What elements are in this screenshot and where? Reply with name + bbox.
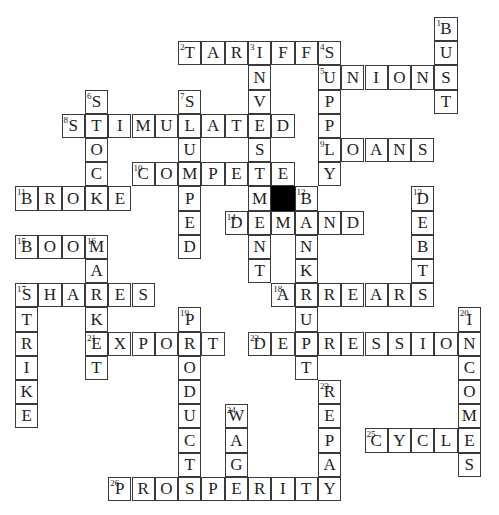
crossword-cell[interactable]: A: [225, 428, 248, 452]
crossword-cell[interactable]: E: [108, 186, 131, 210]
crossword-cell[interactable]: O: [155, 332, 178, 356]
crossword-cell[interactable]: 23R: [318, 380, 341, 404]
crossword-cell[interactable]: M: [132, 114, 155, 138]
crossword-cell[interactable]: N: [318, 211, 341, 235]
crossword-cell[interactable]: R: [318, 332, 341, 356]
crossword-cell[interactable]: R: [388, 283, 411, 307]
crossword-cell[interactable]: 16M: [85, 235, 108, 259]
crossword-cell[interactable]: P: [318, 428, 341, 452]
crossword-cell[interactable]: D: [271, 114, 294, 138]
crossword-cell[interactable]: 13D: [411, 186, 434, 210]
crossword-cell[interactable]: M: [248, 186, 271, 210]
crossword-cell[interactable]: E: [178, 211, 201, 235]
crossword-cell[interactable]: K: [15, 380, 38, 404]
crossword-cell[interactable]: N: [295, 235, 318, 259]
crossword-cell[interactable]: T: [178, 453, 201, 477]
crossword-cell[interactable]: D: [178, 235, 201, 259]
crossword-cell[interactable]: R: [15, 332, 38, 356]
crossword-cell[interactable]: G: [225, 453, 248, 477]
crossword-cell[interactable]: A: [62, 283, 85, 307]
crossword-cell[interactable]: 14D: [225, 211, 248, 235]
crossword-cell[interactable]: 12B: [295, 186, 318, 210]
crossword-cell[interactable]: P: [318, 114, 341, 138]
crossword-cell[interactable]: 17S: [15, 283, 38, 307]
crossword-cell[interactable]: R: [85, 283, 108, 307]
crossword-cell[interactable]: M: [178, 162, 201, 186]
crossword-cell[interactable]: R: [38, 186, 61, 210]
crossword-cell[interactable]: E: [411, 211, 434, 235]
crossword-cell[interactable]: A: [318, 453, 341, 477]
crossword-cell[interactable]: F: [295, 41, 318, 65]
crossword-cell[interactable]: S: [388, 332, 411, 356]
crossword-cell[interactable]: T: [85, 114, 108, 138]
crossword-cell[interactable]: S: [434, 65, 457, 89]
crossword-cell[interactable]: A: [201, 41, 224, 65]
crossword-cell[interactable]: 22D: [248, 332, 271, 356]
crossword-cell[interactable]: O: [388, 65, 411, 89]
crossword-cell[interactable]: O: [155, 477, 178, 501]
crossword-cell[interactable]: P: [295, 332, 318, 356]
crossword-cell[interactable]: N: [388, 138, 411, 162]
crossword-cell[interactable]: 6S: [85, 90, 108, 114]
crossword-cell[interactable]: 7S: [178, 90, 201, 114]
crossword-cell[interactable]: 24W: [225, 404, 248, 428]
crossword-cell[interactable]: 11B: [15, 186, 38, 210]
crossword-cell[interactable]: M: [458, 404, 481, 428]
crossword-cell[interactable]: P: [201, 477, 224, 501]
crossword-cell[interactable]: K: [295, 259, 318, 283]
crossword-cell[interactable]: A: [85, 259, 108, 283]
crossword-cell[interactable]: P: [178, 186, 201, 210]
crossword-cell[interactable]: P: [318, 90, 341, 114]
crossword-cell[interactable]: U: [155, 114, 178, 138]
crossword-cell[interactable]: Y: [318, 162, 341, 186]
crossword-cell[interactable]: O: [178, 356, 201, 380]
crossword-cell[interactable]: K: [85, 307, 108, 331]
crossword-cell[interactable]: R: [178, 332, 201, 356]
crossword-cell[interactable]: S: [411, 283, 434, 307]
crossword-cell[interactable]: 19P: [178, 307, 201, 331]
crossword-cell[interactable]: T: [225, 114, 248, 138]
crossword-cell[interactable]: T: [295, 356, 318, 380]
crossword-cell[interactable]: E: [458, 428, 481, 452]
crossword-cell[interactable]: I: [271, 477, 294, 501]
crossword-cell[interactable]: I: [411, 332, 434, 356]
crossword-cell[interactable]: O: [62, 235, 85, 259]
crossword-cell[interactable]: A: [201, 114, 224, 138]
crossword-cell[interactable]: M: [271, 211, 294, 235]
crossword-cell[interactable]: 1B: [434, 17, 457, 41]
crossword-cell[interactable]: D: [341, 211, 364, 235]
crossword-cell[interactable]: N: [248, 65, 271, 89]
crossword-cell[interactable]: F: [271, 41, 294, 65]
crossword-cell[interactable]: E: [318, 404, 341, 428]
crossword-cell[interactable]: T: [434, 90, 457, 114]
crossword-cell[interactable]: O: [458, 380, 481, 404]
crossword-cell[interactable]: 9L: [318, 138, 341, 162]
crossword-cell[interactable]: E: [248, 114, 271, 138]
crossword-cell[interactable]: S: [178, 477, 201, 501]
crossword-cell[interactable]: N: [248, 235, 271, 259]
crossword-cell[interactable]: B: [411, 235, 434, 259]
crossword-cell[interactable]: C: [85, 162, 108, 186]
crossword-cell[interactable]: V: [248, 90, 271, 114]
crossword-cell[interactable]: 21E: [85, 332, 108, 356]
crossword-cell[interactable]: R: [318, 283, 341, 307]
crossword-cell[interactable]: E: [341, 283, 364, 307]
crossword-cell[interactable]: 25C: [365, 428, 388, 452]
crossword-cell[interactable]: O: [155, 162, 178, 186]
crossword-cell[interactable]: U: [434, 41, 457, 65]
crossword-cell[interactable]: A: [295, 211, 318, 235]
crossword-cell[interactable]: S: [365, 332, 388, 356]
crossword-cell[interactable]: R: [295, 283, 318, 307]
crossword-cell[interactable]: 18A: [271, 283, 294, 307]
crossword-cell[interactable]: L: [434, 428, 457, 452]
crossword-cell[interactable]: E: [225, 477, 248, 501]
crossword-cell[interactable]: K: [85, 186, 108, 210]
crossword-cell[interactable]: I: [365, 65, 388, 89]
crossword-cell[interactable]: T: [201, 332, 224, 356]
crossword-cell[interactable]: U: [295, 307, 318, 331]
crossword-cell[interactable]: I: [108, 114, 131, 138]
crossword-cell[interactable]: X: [108, 332, 131, 356]
crossword-cell[interactable]: 4S: [318, 41, 341, 65]
crossword-cell[interactable]: E: [225, 162, 248, 186]
crossword-cell[interactable]: 15B: [15, 235, 38, 259]
